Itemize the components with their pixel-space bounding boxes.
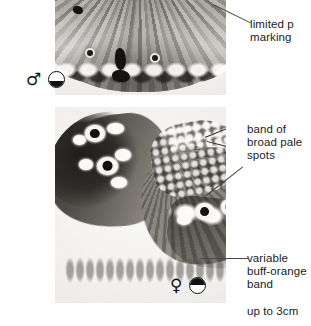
pale-spot: [73, 135, 86, 145]
pale-spot-with-eye: [85, 125, 105, 142]
male-sex-icon: ♂: [26, 71, 41, 88]
photo-panel-female-specimen: [55, 107, 226, 303]
pale-spot: [79, 159, 93, 170]
pale-spot-with-eye: [97, 157, 118, 175]
annotation-band-of-broad-pale-spots: band of broad pale spots: [247, 123, 302, 163]
annotation-variable-buff-orange-band: variable buff-orange band: [247, 252, 307, 292]
annotation-limited-pale-markings: limited p marking: [250, 18, 294, 44]
male-dark-blotch: [112, 70, 130, 82]
buff-band-eye-spot: [195, 203, 214, 220]
male-symbol-group: ♂: [26, 71, 65, 88]
season-half-circle-icon: [48, 71, 65, 88]
season-half-circle-icon: [189, 277, 206, 294]
size-note: up to 3cm: [247, 305, 298, 318]
male-dark-blotch: [73, 6, 83, 14]
male-dark-blotch: [115, 48, 126, 70]
leader-line-variable-buff-orange-band: [200, 258, 248, 259]
male-ocellus-spot: [87, 50, 93, 56]
buff-band-spot: [177, 215, 191, 225]
female-symbol-group: ♀: [170, 277, 206, 294]
male-ocellus-spot: [152, 55, 158, 61]
photo-panel-male-specimen: [55, 0, 226, 95]
pale-spot: [107, 123, 124, 134]
pale-spot: [115, 149, 131, 161]
pale-spot: [111, 177, 127, 188]
butterfly-identification-plate: ♂ ♀ limited p marking band: [0, 0, 311, 326]
female-sex-icon: ♀: [170, 277, 182, 294]
